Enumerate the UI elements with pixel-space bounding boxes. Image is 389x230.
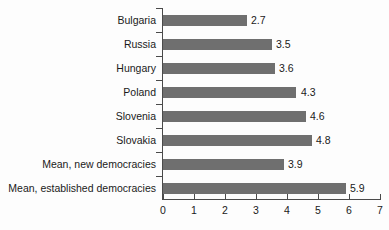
category-label: Mean, new democracies — [42, 152, 156, 176]
bar — [163, 159, 284, 170]
chart-row: Slovakia 4.8 — [0, 128, 389, 152]
chart-row: Hungary 3.6 — [0, 56, 389, 80]
bar — [163, 135, 312, 146]
x-axis-tick-label: 0 — [153, 203, 173, 217]
bar — [163, 15, 247, 26]
category-label: Slovenia — [116, 104, 156, 128]
bar-value-label: 4.8 — [316, 128, 331, 152]
category-label: Mean, established democracies — [8, 176, 156, 200]
category-label: Bulgaria — [117, 8, 156, 32]
bar-value-label: 2.7 — [251, 8, 266, 32]
category-label: Poland — [123, 80, 156, 104]
chart-row: Russia 3.5 — [0, 32, 389, 56]
bar-value-label: 4.3 — [301, 80, 316, 104]
bar-value-label: 3.5 — [276, 32, 291, 56]
x-axis-tick — [194, 194, 195, 200]
chart-row: Poland 4.3 — [0, 80, 389, 104]
bar — [163, 111, 306, 122]
x-axis-tick-label: 7 — [370, 203, 389, 217]
category-label: Slovakia — [116, 128, 156, 152]
bar — [163, 39, 272, 50]
bar-value-label: 5.9 — [350, 176, 365, 200]
bar — [163, 63, 275, 74]
bar — [163, 87, 296, 98]
x-axis-tick-label: 1 — [184, 203, 204, 217]
chart-row: Slovenia 4.6 — [0, 104, 389, 128]
category-label: Hungary — [116, 56, 156, 80]
x-axis-tick — [318, 194, 319, 200]
category-label: Russia — [124, 32, 156, 56]
x-axis-tick-label: 3 — [246, 203, 266, 217]
x-axis-tick — [225, 194, 226, 200]
x-axis-tick — [287, 194, 288, 200]
x-axis-tick — [349, 194, 350, 200]
x-axis-tick-label: 5 — [308, 203, 328, 217]
x-axis-tick — [256, 194, 257, 200]
chart-row: Bulgaria 2.7 — [0, 8, 389, 32]
x-axis-tick — [380, 194, 381, 200]
x-axis-tick-label: 4 — [277, 203, 297, 217]
bar-chart: Bulgaria 2.7 Russia 3.5 Hungary 3.6 Pola… — [0, 0, 389, 230]
bar-value-label: 3.6 — [279, 56, 294, 80]
x-axis-tick-label: 2 — [215, 203, 235, 217]
bar-value-label: 4.6 — [310, 104, 325, 128]
bar-value-label: 3.9 — [288, 152, 303, 176]
x-axis-tick — [163, 194, 164, 200]
bar — [163, 183, 346, 194]
x-axis-tick-label: 6 — [339, 203, 359, 217]
chart-row: Mean, new democracies 3.9 — [0, 152, 389, 176]
